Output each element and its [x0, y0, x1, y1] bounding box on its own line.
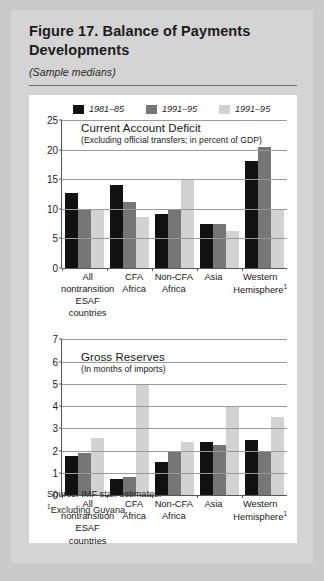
- x-axis-label: AllnontransitionESAF countries: [61, 271, 114, 319]
- legend-swatch-icon: [219, 105, 230, 114]
- y-axis-tick-label: 15: [47, 174, 58, 185]
- legend-label: 1991–95: [235, 104, 270, 114]
- gridline: [62, 120, 287, 121]
- bar-series-chart-1: [62, 120, 287, 268]
- bar: [245, 161, 258, 268]
- y-axis-tick-mark: [59, 268, 62, 269]
- bar-group: [62, 120, 107, 268]
- y-axis-tick-label: 4: [52, 401, 58, 412]
- legend-label: 1981–85: [89, 104, 124, 114]
- bar-group: [242, 339, 287, 495]
- gridline: [62, 473, 287, 474]
- bar: [181, 179, 194, 268]
- chart-legend: 1981–85 1991–95 1991–95: [73, 95, 297, 114]
- legend-label: 1991–95: [162, 104, 197, 114]
- page-title: Figure 17. Balance of Payments Developme…: [29, 22, 297, 59]
- legend-item-1991-95-a: 1991–95: [146, 104, 197, 114]
- y-axis-tick-mark: [59, 406, 62, 407]
- y-axis-tick-label: 5: [52, 378, 58, 389]
- y-axis-tick-mark: [59, 339, 62, 340]
- bar-group: [152, 339, 197, 495]
- gridline: [62, 428, 287, 429]
- chart-panel: 1981–85 1991–95 1991–95 0510152025 Curre…: [29, 95, 297, 543]
- gridline: [62, 209, 287, 210]
- x-axis-labels-chart-1: AllnontransitionESAF countriesCFAAfricaN…: [61, 271, 287, 319]
- bar: [110, 185, 123, 268]
- legend-item-1981-85: 1981–85: [73, 104, 124, 114]
- bar: [213, 224, 226, 268]
- y-axis-tick-mark: [59, 473, 62, 474]
- y-axis-tick-label: 20: [47, 144, 58, 155]
- y-axis-tick-label: 10: [47, 203, 58, 214]
- bar-group: [62, 339, 107, 495]
- footnote-text: Excluding Guyana.: [51, 505, 128, 515]
- bar-series-chart-2: [62, 339, 287, 495]
- bar-group: [107, 339, 152, 495]
- bar: [258, 147, 271, 268]
- y-axis-tick-label: 0: [52, 263, 58, 274]
- x-axis-label: WesternHemisphere1: [233, 498, 287, 546]
- gridline: [62, 384, 287, 385]
- bar-group: [107, 120, 152, 268]
- x-axis-label: Asia: [194, 271, 234, 319]
- y-axis-tick-mark: [59, 361, 62, 362]
- gridline: [62, 339, 287, 340]
- x-axis-label: Asia: [194, 498, 234, 546]
- figure-page: Figure 17. Balance of Payments Developme…: [11, 10, 313, 563]
- bar: [136, 384, 149, 495]
- chart-current-account-deficit: 0510152025 Current Account Deficit (Excl…: [35, 120, 287, 319]
- y-axis-tick-label: 25: [47, 115, 58, 126]
- gridline: [62, 179, 287, 180]
- y-axis-tick-label: 2: [52, 445, 58, 456]
- figure-header: Figure 17. Balance of Payments Developme…: [11, 10, 313, 78]
- gridline: [62, 406, 287, 407]
- y-axis-tick-mark: [59, 179, 62, 180]
- y-axis-tick-label: 7: [52, 334, 58, 345]
- bar: [91, 438, 104, 495]
- bar: [200, 224, 213, 268]
- y-axis-tick-label: 5: [52, 233, 58, 244]
- y-axis-tick-mark: [59, 450, 62, 451]
- gridline: [62, 362, 287, 363]
- x-axis-label: CFAAfrica: [114, 271, 154, 319]
- y-axis-tick-mark: [59, 120, 62, 121]
- gridline: [62, 238, 287, 239]
- y-axis-tick-mark: [59, 149, 62, 150]
- bar: [123, 202, 136, 268]
- figure-footer: Source: IMF staff estimates. 1Excluding …: [47, 488, 161, 517]
- gridline: [62, 150, 287, 151]
- plot-area-chart-2: 01234567: [61, 339, 287, 495]
- gridline: [62, 268, 287, 269]
- footnote-note: 1Excluding Guyana.: [47, 502, 161, 517]
- bar-group: [197, 339, 242, 495]
- y-axis-tick-mark: [59, 208, 62, 209]
- plot-area-chart-1: 0510152025: [61, 120, 287, 268]
- bar: [155, 214, 168, 268]
- x-axis-label: WesternHemisphere1: [233, 271, 287, 319]
- bar-group: [152, 120, 197, 268]
- bar: [136, 217, 149, 268]
- y-axis-tick-label: 6: [52, 356, 58, 367]
- bar-group: [197, 120, 242, 268]
- y-axis-tick-label: 3: [52, 423, 58, 434]
- figure-subtitle: (Sample medians): [29, 66, 297, 78]
- y-axis-tick-mark: [59, 428, 62, 429]
- bar: [65, 193, 78, 268]
- header-divider: [29, 85, 297, 86]
- legend-swatch-icon: [73, 105, 84, 114]
- y-axis-tick-mark: [59, 383, 62, 384]
- x-axis-label: Non-CFAAfrica: [154, 271, 194, 319]
- bar-group: [242, 120, 287, 268]
- bar: [226, 231, 239, 268]
- gridline: [62, 451, 287, 452]
- bar: [245, 440, 258, 496]
- y-axis-tick-mark: [59, 238, 62, 239]
- legend-item-1991-95-b: 1991–95: [219, 104, 270, 114]
- y-axis-tick-label: 1: [52, 468, 58, 479]
- bar: [213, 445, 226, 495]
- source-note: Source: IMF staff estimates.: [47, 488, 161, 501]
- legend-swatch-icon: [146, 105, 157, 114]
